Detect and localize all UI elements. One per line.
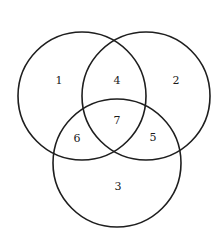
region-label-6: 6 bbox=[74, 132, 81, 145]
venn-diagram: 1 2 3 4 5 6 7 bbox=[0, 0, 221, 248]
region-label-7: 7 bbox=[114, 114, 121, 127]
region-label-4: 4 bbox=[114, 74, 121, 87]
region-label-5: 5 bbox=[150, 131, 157, 144]
region-label-2: 2 bbox=[173, 74, 180, 87]
region-label-1: 1 bbox=[56, 74, 63, 87]
region-label-3: 3 bbox=[115, 180, 122, 193]
